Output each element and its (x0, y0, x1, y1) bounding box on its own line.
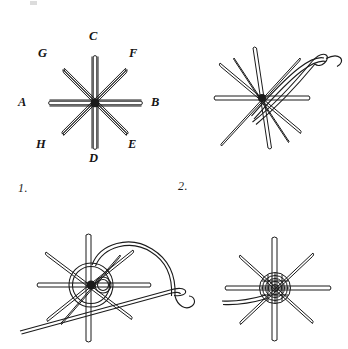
point-label-e: E (128, 138, 136, 151)
figure-2-caption: 2. (178, 179, 188, 194)
figure-1-caption: 1. (18, 181, 28, 196)
scan-speck (30, 1, 37, 5)
point-label-b: B (151, 96, 159, 109)
point-label-f: F (129, 47, 137, 60)
point-label-c: C (89, 30, 97, 43)
figure-3-centre-knot (87, 281, 96, 290)
plate-background (0, 0, 348, 349)
point-label-d: D (89, 152, 98, 165)
point-label-a: A (18, 96, 26, 109)
embroidery-diagram-plate: Woven Spider Web Wheel Stitch - four ste… (0, 0, 348, 349)
point-label-g: G (38, 47, 47, 60)
point-label-h: H (36, 138, 46, 151)
figure-1-centre-knot (91, 99, 99, 107)
